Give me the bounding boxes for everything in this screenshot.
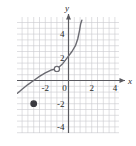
origin-tick: 0 xyxy=(62,83,67,93)
y-axis-arrow xyxy=(66,14,71,20)
x-tick-2: 2 xyxy=(89,83,94,93)
y-tick--2: -2 xyxy=(57,99,65,109)
graph-figure: -22442-2-40 x y xyxy=(0,0,136,146)
x-tick-4: 4 xyxy=(113,83,118,93)
x-axis-label: x xyxy=(127,76,132,86)
x-axis-arrow xyxy=(120,78,126,83)
y-tick-2: 2 xyxy=(60,53,65,63)
y-tick--4: -4 xyxy=(57,122,65,132)
coordinate-plane: -22442-2-40 x y xyxy=(0,0,136,146)
y-axis-label: y xyxy=(64,3,69,13)
y-tick-4: 4 xyxy=(60,29,65,39)
open-circle-hole xyxy=(54,66,59,71)
filled-point xyxy=(31,101,37,107)
x-tick--2: -2 xyxy=(42,83,50,93)
